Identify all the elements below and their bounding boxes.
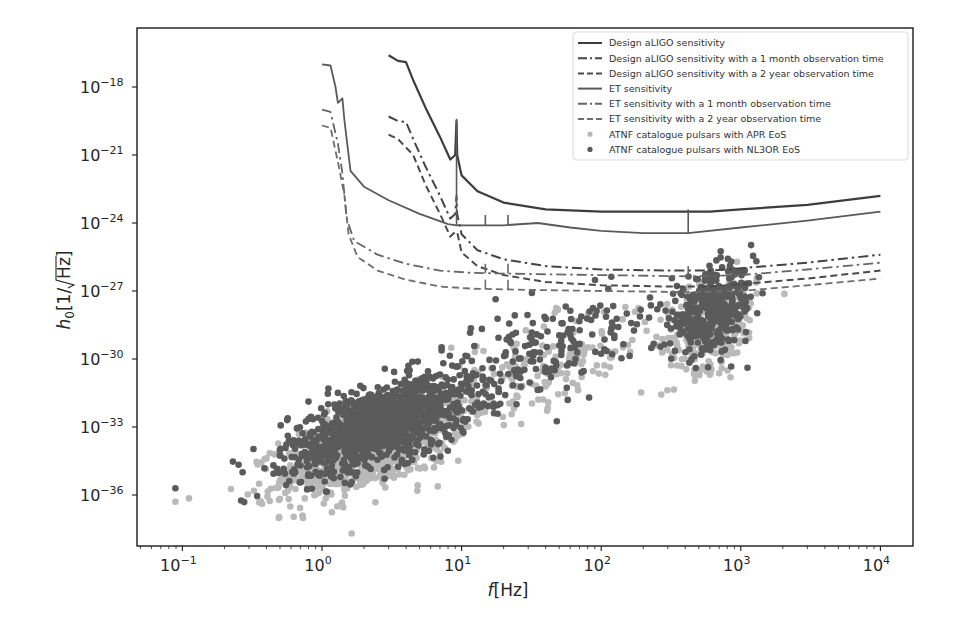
legend-item: ATNF catalogue pulsars with APR EoS (587, 129, 786, 140)
chart: 10−1100101102103104 10−1810−2110−2410−27… (0, 0, 960, 626)
legend-label: ET sensitivity with a 1 month observatio… (609, 98, 831, 109)
y-tick-label: 10−33 (80, 416, 124, 437)
svg-text:h0[1/Hz]: h0[1/Hz] (54, 251, 77, 330)
x-tick-label: 104 (863, 554, 890, 575)
y-tick-label: 10−24 (80, 212, 124, 233)
legend-label: Design aLIGO sensitivity with a 2 year o… (609, 68, 874, 79)
y-tick-label: 10−18 (80, 76, 124, 97)
x-axis-label: f[Hz] (488, 580, 529, 600)
legend-label: Design aLIGO sensitivity (609, 37, 725, 48)
y-tick-label: 10−21 (80, 144, 124, 165)
scatter-series (186, 259, 788, 561)
legend-label: ATNF catalogue pulsars with NL3OR EoS (609, 144, 800, 155)
y-tick-label: 10−30 (80, 348, 124, 369)
y-axis: 10−1810−2110−2410−2710−3010−3310−36 (80, 76, 137, 505)
y-tick-label: 10−36 (80, 484, 124, 505)
legend-dot-icon (587, 147, 592, 152)
legend: Design aLIGO sensitivityDesign aLIGO sen… (573, 32, 908, 160)
legend-label: ATNF catalogue pulsars with APR EoS (609, 129, 786, 140)
legend-item: Design aLIGO sensitivity with a 1 month … (578, 53, 884, 64)
x-tick-label: 100 (304, 554, 331, 575)
legend-dot-icon (587, 132, 592, 137)
legend-label: Design aLIGO sensitivity with a 1 month … (609, 53, 884, 64)
legend-item: ATNF catalogue pulsars with NL3OR EoS (587, 144, 800, 155)
legend-item: ET sensitivity with a 1 month observatio… (578, 98, 831, 109)
y-axis-label: h0[1/Hz] (54, 251, 77, 330)
legend-item: Design aLIGO sensitivity with a 2 year o… (578, 68, 874, 79)
y-tick-label: 10−27 (80, 280, 124, 301)
x-tick-label: 102 (584, 554, 611, 575)
legend-label: ET sensitivity with a 2 year observation… (609, 113, 821, 124)
legend-item: ET sensitivity with a 2 year observation… (578, 113, 821, 124)
x-tick-label: 101 (444, 554, 471, 575)
x-tick-label: 103 (723, 554, 750, 575)
legend-label: ET sensitivity (609, 83, 673, 94)
x-tick-label: 10−1 (160, 554, 197, 575)
x-axis: 10−1100101102103104 (140, 546, 890, 575)
legend-box (573, 32, 908, 160)
